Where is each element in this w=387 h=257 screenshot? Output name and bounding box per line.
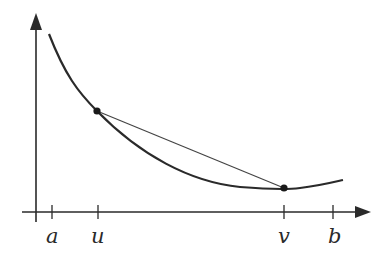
convex-function-diagram: a u v b [0,0,387,257]
point-v [280,184,287,191]
label-v: v [278,224,290,248]
point-u [93,107,100,114]
y-axis-arrow-icon [30,13,42,30]
chord-line [97,111,284,188]
x-axis-arrow-icon [355,206,371,218]
convex-curve [49,34,343,189]
label-u: u [91,224,105,248]
label-a: a [46,224,59,248]
label-b: b [328,224,341,248]
